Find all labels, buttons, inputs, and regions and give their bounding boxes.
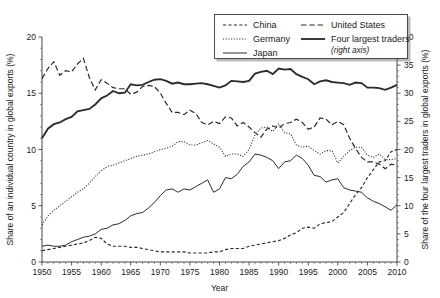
legend-label-united-states: United States <box>331 20 385 30</box>
y-right-tick-label: 25 <box>404 116 414 126</box>
series-line-japan <box>42 154 397 246</box>
legend-item-four-largest-traders: Four largest traders <box>300 33 410 45</box>
axes-group <box>39 37 401 266</box>
y-right-tick-label: 0 <box>404 257 409 267</box>
x-tick-label: 1975 <box>180 267 199 277</box>
legend-item-united-states: United States <box>300 19 410 31</box>
x-tick-label: 1995 <box>299 267 318 277</box>
y-axis-left-title: Share of an individual country in global… <box>5 53 15 245</box>
legend-item-germany: Germany <box>222 33 290 45</box>
x-axis-title: Year <box>211 283 228 293</box>
y-right-tick-label: 30 <box>404 88 414 98</box>
legend-swatch-germany <box>222 35 248 43</box>
y-left-tick-label: 5 <box>31 201 36 211</box>
legend-swatch-japan <box>222 49 248 57</box>
series-group <box>42 58 397 253</box>
y-right-tick-label: 5 <box>404 229 409 239</box>
legend-note: (right axis) <box>331 46 410 55</box>
x-tick-label: 1985 <box>240 267 259 277</box>
y-left-tick-label: 20 <box>27 32 37 42</box>
y-left-tick-label: 15 <box>27 88 37 98</box>
x-tick-label: 1970 <box>151 267 170 277</box>
legend-label-china: China <box>253 20 277 30</box>
series-line-china <box>42 150 397 254</box>
x-tick-label: 2005 <box>358 267 377 277</box>
x-tick-label: 1955 <box>62 267 81 277</box>
series-line-germany <box>42 124 397 225</box>
legend-swatch-china <box>222 21 248 29</box>
x-tick-label: 2010 <box>388 267 407 277</box>
legend-label-germany: Germany <box>253 34 290 44</box>
y-right-tick-label: 10 <box>404 201 414 211</box>
legend-label-japan: Japan <box>253 48 278 58</box>
series-line-united-states <box>42 58 397 168</box>
legend-item-japan: Japan <box>222 47 290 59</box>
series-line-four-largest-traders <box>42 69 397 139</box>
legend-item-china: China <box>222 19 290 31</box>
x-tick-label: 1965 <box>121 267 140 277</box>
legend-swatch-four-largest-traders <box>300 35 326 43</box>
y-left-tick-label: 10 <box>27 145 37 155</box>
y-right-tick-label: 20 <box>404 145 414 155</box>
y-right-tick-label: 35 <box>404 60 414 70</box>
x-tick-label: 1950 <box>33 267 52 277</box>
chart-legend: China Germany Japan <box>214 14 408 59</box>
y-axis-right-title: Share of the four largest traders in glo… <box>420 49 430 249</box>
x-tick-label: 1990 <box>269 267 288 277</box>
legend-swatch-united-states <box>300 21 326 29</box>
legend-label-four-largest-traders: Four largest traders <box>331 34 410 44</box>
x-tick-label: 1980 <box>210 267 229 277</box>
x-tick-label: 1960 <box>92 267 111 277</box>
chart-figure: 1950195519601965197019751980198519901995… <box>0 0 440 298</box>
y-right-tick-label: 15 <box>404 173 414 183</box>
y-left-tick-label: 0 <box>31 257 36 267</box>
x-tick-label: 2000 <box>328 267 347 277</box>
